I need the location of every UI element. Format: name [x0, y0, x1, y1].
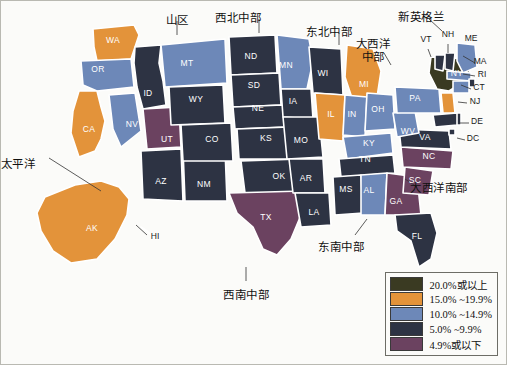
external-state-label-nh: NH	[442, 29, 454, 39]
state-mt[interactable]	[161, 39, 227, 87]
state-nd[interactable]	[229, 35, 277, 75]
state-wv[interactable]	[393, 111, 419, 137]
region-label-mountain: 山区	[166, 14, 189, 27]
region-label-east-north-central: 东北中部	[306, 26, 352, 39]
state-nc[interactable]	[401, 147, 453, 169]
leader-east-south-central	[355, 219, 367, 235]
legend: 20.0%或以上15.0% ~19.9%10.0% ~14.9%5.0% ~9.…	[385, 272, 498, 356]
state-wy[interactable]	[169, 85, 225, 125]
legend-label-4: 4.9%或以下	[429, 337, 481, 352]
state-in[interactable]	[343, 95, 367, 137]
state-md[interactable]	[433, 113, 457, 127]
legend-label-2: 10.0% ~14.9%	[429, 309, 492, 320]
state-ks[interactable]	[237, 127, 291, 159]
legend-swatch-2	[390, 307, 423, 321]
state-il[interactable]	[315, 93, 345, 141]
legend-label-3: 5.0% ~9.9%	[429, 324, 481, 335]
region-label-west-south-central: 西南中部	[223, 289, 269, 302]
state-az[interactable]	[141, 149, 183, 201]
region-label-east-south-central: 东南中部	[318, 241, 364, 254]
state-al[interactable]	[361, 173, 387, 215]
state-ia[interactable]	[281, 89, 313, 119]
state-co[interactable]	[181, 123, 233, 161]
state-nv[interactable]	[109, 93, 141, 147]
state-ma[interactable]	[447, 71, 471, 81]
state-wi[interactable]	[309, 47, 343, 95]
legend-row-1: 15.0% ~19.9%	[390, 292, 492, 306]
state-mn[interactable]	[277, 35, 313, 89]
state-pa[interactable]	[395, 87, 441, 113]
legend-row-0: 20.0%或以上	[390, 277, 492, 291]
state-ms[interactable]	[333, 175, 363, 215]
state-or[interactable]	[81, 59, 134, 91]
external-state-label-vt: VT	[421, 34, 432, 44]
external-state-label-nj: NJ	[470, 96, 480, 106]
legend-swatch-3	[390, 322, 423, 336]
legend-row-4: 4.9%或以下	[390, 337, 492, 351]
external-state-label-me: ME	[465, 33, 478, 43]
leader-nj	[458, 102, 467, 103]
state-sd[interactable]	[231, 73, 281, 107]
legend-swatch-1	[390, 292, 423, 306]
leader-vt	[428, 49, 431, 57]
external-state-label-dc: DC	[467, 133, 479, 143]
state-ca[interactable]	[71, 91, 105, 157]
state-ar[interactable]	[289, 159, 325, 193]
region-label-south-atlantic: 大西洋南部	[410, 182, 468, 195]
legend-row-2: 10.0% ~14.9%	[390, 307, 492, 321]
state-ri[interactable]	[469, 79, 475, 87]
external-state-label-ri: RI	[478, 69, 487, 79]
state-nj[interactable]	[441, 93, 455, 113]
region-label-mid-atlantic: 大西洋中部	[356, 38, 391, 64]
state-wa[interactable]	[93, 25, 139, 61]
region-label-west-north-central: 西北中部	[215, 12, 261, 25]
state-nh[interactable]	[445, 53, 455, 71]
legend-swatch-0	[390, 277, 423, 291]
state-tx[interactable]	[229, 191, 303, 255]
state-ak[interactable]	[37, 181, 129, 263]
legend-swatch-4	[390, 337, 423, 351]
region-label-pacific: 太平洋	[1, 158, 36, 171]
state-la[interactable]	[295, 193, 331, 227]
external-state-label-de: DE	[471, 116, 483, 126]
legend-label-0: 20.0%或以上	[429, 277, 486, 292]
state-dc[interactable]	[449, 129, 455, 135]
states-layer	[37, 25, 477, 267]
state-vt[interactable]	[435, 55, 445, 71]
choropleth-map-figure: WAORCAIDNVUTAZNMMTWYCONDSDNEKSOKTXMNIAMO…	[0, 0, 507, 365]
state-ne[interactable]	[233, 105, 285, 129]
legend-row-3: 5.0% ~9.9%	[390, 322, 492, 336]
legend-label-1: 15.0% ~19.9%	[429, 294, 492, 305]
state-oh[interactable]	[365, 93, 395, 131]
leader-dc	[457, 138, 465, 140]
state-fl[interactable]	[395, 213, 437, 267]
region-label-new-england: 新英格兰	[398, 11, 444, 24]
state-hi[interactable]	[141, 227, 157, 239]
